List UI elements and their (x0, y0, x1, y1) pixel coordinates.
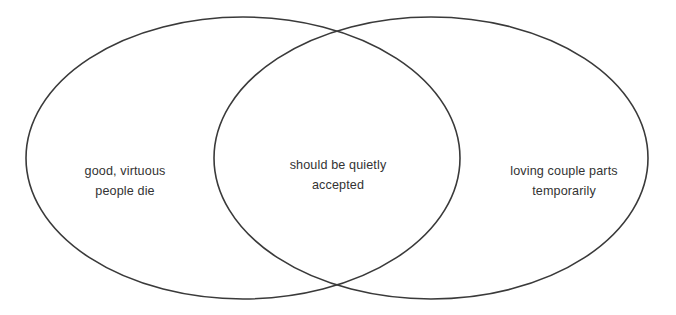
venn-region-label-intersection-line-2: accepted (253, 175, 423, 195)
venn-region-label-right-line-1: loving couple parts (474, 161, 654, 181)
venn-diagram: good, virtuous people die should be quie… (0, 0, 676, 315)
venn-region-label-right-line-2: temporarily (474, 181, 654, 201)
venn-region-label-intersection-line-1: should be quietly (253, 155, 423, 175)
venn-region-label-left-line-1: good, virtuous (35, 161, 215, 181)
venn-region-label-right: loving couple parts temporarily (474, 161, 654, 202)
venn-region-label-left-line-2: people die (35, 181, 215, 201)
venn-region-label-intersection: should be quietly accepted (253, 155, 423, 196)
venn-region-label-left: good, virtuous people die (35, 161, 215, 202)
